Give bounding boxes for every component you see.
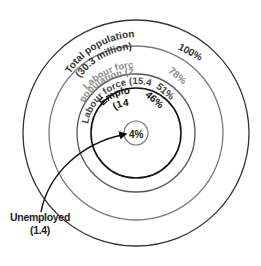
percent-unemployed: 4% — [129, 129, 144, 140]
percent-labour-force-population: 78% — [166, 65, 188, 86]
unemployed-label: Unemployed — [8, 211, 72, 224]
unemployed-callout: Unemployed (1.4) — [8, 211, 72, 237]
percent-total: 100% — [177, 41, 205, 63]
unemployed-value: (1.4) — [8, 224, 72, 237]
unemployed-arrow — [41, 134, 126, 212]
